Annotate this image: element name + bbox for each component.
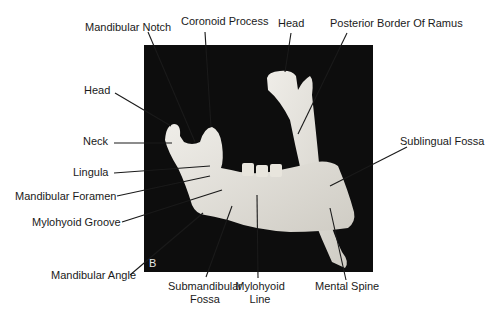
label-mandibular-foramen: Mandibular Foramen xyxy=(15,190,117,203)
diagram-overlay xyxy=(0,0,488,315)
label-mandibular-angle: Mandibular Angle xyxy=(51,269,136,282)
label-mylohyoid-line-line1: Mylohyoid xyxy=(230,280,290,293)
label-head-right: Head xyxy=(278,17,304,30)
tooth xyxy=(270,164,282,177)
label-mylohyoid-line-line2: Line xyxy=(230,293,290,306)
label-mylohyoid-groove: Mylohyoid Groove xyxy=(32,216,121,229)
label-mandibular-notch: Mandibular Notch xyxy=(85,21,171,34)
tooth xyxy=(242,163,254,176)
label-sublingual-fossa: Sublingual Fossa xyxy=(400,135,484,148)
tooth xyxy=(256,165,268,177)
panel-letter: B xyxy=(149,257,156,269)
label-coronoid-process: Coronoid Process xyxy=(181,15,268,28)
label-mental-spine: Mental Spine xyxy=(315,280,379,293)
label-posterior-border-of-ramus: Posterior Border Of Ramus xyxy=(330,17,463,30)
label-head-left: Head xyxy=(84,84,110,97)
label-mylohyoid-line: Mylohyoid Line xyxy=(230,280,290,306)
label-neck: Neck xyxy=(83,135,108,148)
label-lingula: Lingula xyxy=(73,166,108,179)
mandible-body-shape xyxy=(165,124,354,232)
